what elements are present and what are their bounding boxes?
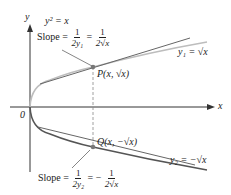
- numerator: 1: [108, 168, 115, 179]
- denominator: 2√x: [105, 179, 118, 189]
- denominator: 2y₁: [71, 38, 83, 48]
- fraction: 12√x: [96, 27, 109, 48]
- equation-label: y² = x: [45, 16, 69, 26]
- x-axis-arrow-icon: [207, 104, 215, 110]
- slope-prefix: Slope =: [37, 31, 68, 42]
- slope-pointer-lower: [72, 150, 90, 168]
- slope-prefix: Slope =: [38, 172, 69, 183]
- origin-label: 0: [20, 110, 25, 120]
- denominator: 2√x: [96, 38, 109, 48]
- slope-pointer-upper: [62, 50, 92, 66]
- lower-slope-label: Slope = 12y₂ = − 12√x: [38, 168, 119, 189]
- numerator: 1: [75, 168, 82, 179]
- y-axis-arrow-icon: [27, 24, 33, 32]
- denominator: 2y₂: [72, 179, 84, 189]
- lower-curve-label: y₂ = −√x: [170, 155, 206, 165]
- fraction: 12y₁: [71, 27, 83, 48]
- point-p: [91, 65, 96, 70]
- point-q: [91, 145, 96, 150]
- y-axis-label: y: [25, 12, 29, 22]
- parabola-tangent-diagram: y x 0 y² = x Slope = 12y₁ = 12√x P(x, √x…: [0, 0, 231, 195]
- fraction: 12y₂: [72, 168, 84, 189]
- numerator: 1: [99, 27, 106, 38]
- numerator: 1: [74, 27, 81, 38]
- upper-curve-label: y₁ = √x: [178, 47, 208, 57]
- point-p-label: P(x, √x): [97, 69, 129, 79]
- fraction: 12√x: [105, 168, 118, 189]
- minus-sign: −: [96, 172, 102, 183]
- diagram-graphics: [0, 0, 231, 195]
- x-axis-label: x: [218, 101, 222, 111]
- point-q-label: Q(x, −√x): [97, 137, 137, 147]
- upper-slope-label: Slope = 12y₁ = 12√x: [37, 27, 110, 48]
